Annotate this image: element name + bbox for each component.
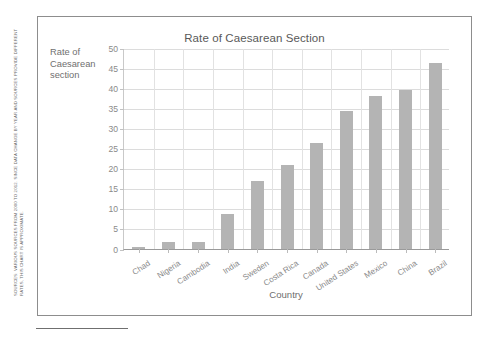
vertical-gridline bbox=[391, 49, 392, 249]
x-axis-tick bbox=[139, 249, 140, 253]
bar[interactable] bbox=[369, 96, 382, 249]
vertical-gridline bbox=[243, 49, 244, 249]
y-axis-tick bbox=[120, 229, 124, 230]
y-axis-tick bbox=[120, 149, 124, 150]
vertical-gridline bbox=[154, 49, 155, 249]
bar[interactable] bbox=[310, 143, 323, 249]
x-axis-tick-label: Chad bbox=[131, 259, 152, 277]
vertical-gridline bbox=[361, 49, 362, 249]
y-axis-tick bbox=[120, 209, 124, 210]
x-axis-tick bbox=[287, 249, 288, 253]
bar[interactable] bbox=[281, 165, 294, 249]
source-note: SOURCES: VARIOUS SOURCES FROM 2000 TO 20… bbox=[13, 0, 27, 24]
vertical-gridline bbox=[213, 49, 214, 249]
y-axis-tick bbox=[120, 109, 124, 110]
x-axis-tick bbox=[228, 249, 229, 253]
x-axis-tick bbox=[376, 249, 377, 253]
vertical-gridline bbox=[420, 49, 421, 249]
y-axis-tick-label: 25 bbox=[96, 145, 118, 154]
bar[interactable] bbox=[429, 63, 442, 249]
x-axis-tick-label: Brazil bbox=[427, 259, 449, 278]
bar[interactable] bbox=[162, 242, 175, 249]
x-axis-tick bbox=[406, 249, 407, 253]
x-axis-tick-label: China bbox=[396, 259, 419, 278]
x-axis-tick bbox=[346, 249, 347, 253]
y-axis-tick bbox=[120, 169, 124, 170]
y-axis-tick-label: 35 bbox=[96, 105, 118, 114]
y-axis-tick-label: 20 bbox=[96, 165, 118, 174]
bar[interactable] bbox=[251, 181, 264, 249]
x-axis-tick-label: Mexico bbox=[363, 259, 389, 281]
chart-page: SOURCES: VARIOUS SOURCES FROM 2000 TO 20… bbox=[0, 0, 486, 340]
x-axis-tick-label: India bbox=[222, 259, 242, 276]
gridline bbox=[124, 49, 449, 50]
y-axis-tick bbox=[120, 49, 124, 50]
y-axis-tick-labels: 05101520253035404550 bbox=[94, 49, 118, 250]
plot-area bbox=[123, 49, 449, 250]
bar[interactable] bbox=[221, 214, 234, 249]
y-axis-tick-label: 15 bbox=[96, 185, 118, 194]
y-axis-tick bbox=[120, 189, 124, 190]
y-axis-tick bbox=[120, 250, 124, 251]
x-axis-tick bbox=[168, 249, 169, 253]
vertical-gridline bbox=[331, 49, 332, 249]
y-axis-tick bbox=[120, 69, 124, 70]
gridline bbox=[124, 69, 449, 70]
y-axis-tick-label: 30 bbox=[96, 125, 118, 134]
bar[interactable] bbox=[399, 90, 412, 249]
y-axis-tick-label: 40 bbox=[96, 85, 118, 94]
x-axis-tick bbox=[317, 249, 318, 253]
y-axis-tick-label: 50 bbox=[96, 45, 118, 54]
bottom-rule bbox=[36, 328, 128, 329]
source-note-text: SOURCES: VARIOUS SOURCES FROM 2000 TO 20… bbox=[13, 24, 26, 296]
y-axis-tick-label: 45 bbox=[96, 65, 118, 74]
vertical-gridline bbox=[183, 49, 184, 249]
x-axis-title: Country bbox=[123, 289, 449, 300]
y-axis-tick bbox=[120, 89, 124, 90]
y-axis-tick-label: 0 bbox=[96, 246, 118, 255]
x-axis-tick bbox=[198, 249, 199, 253]
y-axis-tick-label: 10 bbox=[96, 205, 118, 214]
chart-title: Rate of Caesarean Section bbox=[38, 32, 471, 44]
x-axis-tick bbox=[435, 249, 436, 253]
bar[interactable] bbox=[340, 111, 353, 249]
vertical-gridline bbox=[302, 49, 303, 249]
y-axis-tick-label: 5 bbox=[96, 225, 118, 234]
vertical-gridline bbox=[272, 49, 273, 249]
chart-frame: Rate of Caesarean Section Rate of Caesar… bbox=[37, 16, 472, 316]
x-axis-tick-label: Cambodia bbox=[176, 259, 212, 287]
y-axis-tick bbox=[120, 129, 124, 130]
x-axis-tick bbox=[257, 249, 258, 253]
bar[interactable] bbox=[192, 242, 205, 249]
